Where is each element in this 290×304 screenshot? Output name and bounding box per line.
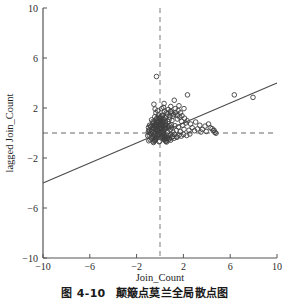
y-axis-title: lagged Join_Count: [4, 93, 15, 172]
x-tick-label: 6: [228, 261, 233, 272]
y-tick-label: 2: [33, 103, 38, 114]
figure-caption-text: 颠簸点莫兰全局散点图: [116, 287, 229, 300]
y-tick-label: 10: [28, 3, 38, 14]
y-tick-label: −6: [27, 203, 38, 214]
x-axis-title: Join_Count: [136, 272, 185, 283]
figure-caption: 图 4-10颠簸点莫兰全局散点图: [0, 284, 290, 300]
x-tick-label: −2: [131, 261, 142, 272]
moran-scatter-plot: −10−6−22610 −10−6−22610 Join_Count lagge…: [0, 0, 290, 304]
x-tick-label: 2: [181, 261, 186, 272]
x-tick-label: −6: [84, 261, 95, 272]
y-tick-label: 6: [33, 53, 38, 64]
x-tick-label: 10: [272, 261, 282, 272]
y-tick-label: −2: [27, 153, 38, 164]
y-tick-label: −10: [22, 253, 38, 264]
figure-container: −10−6−22610 −10−6−22610 Join_Count lagge…: [0, 0, 290, 304]
figure-caption-number: 图 4-10: [61, 287, 105, 300]
